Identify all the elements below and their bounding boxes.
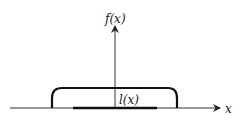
segment-label: l(x)	[119, 93, 139, 107]
function-diagram: f(x) x l(x)	[0, 0, 241, 123]
x-axis-label: x	[225, 102, 232, 116]
y-axis-label: f(x)	[104, 12, 126, 26]
